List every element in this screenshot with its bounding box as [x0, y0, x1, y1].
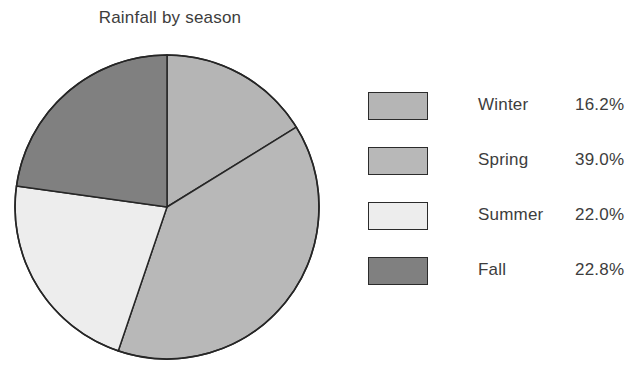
legend-value-winter: 16.2%	[575, 95, 624, 115]
legend-item-spring[interactable]: Spring 39.0%	[368, 145, 632, 200]
pie-chart-figure: Rainfall by season Winter 16.2% Spring 3…	[0, 0, 640, 375]
legend-swatch-summer	[368, 202, 428, 230]
legend-value-summer: 22.0%	[575, 205, 624, 225]
pie-slice-group	[15, 55, 319, 359]
legend-label-fall: Fall	[478, 260, 506, 280]
legend-item-winter[interactable]: Winter 16.2%	[368, 90, 632, 145]
legend-swatch-fall	[368, 257, 428, 285]
legend-label-winter: Winter	[478, 95, 528, 115]
legend-swatch-winter	[368, 92, 428, 120]
legend-item-summer[interactable]: Summer 22.0%	[368, 200, 632, 255]
pie-svg	[0, 38, 340, 375]
legend-item-fall[interactable]: Fall 22.8%	[368, 255, 632, 310]
pie-slice-fall[interactable]	[16, 55, 167, 207]
chart-legend: Winter 16.2% Spring 39.0% Summer 22.0% F…	[368, 90, 632, 310]
legend-label-summer: Summer	[478, 205, 543, 225]
legend-label-spring: Spring	[478, 150, 528, 170]
legend-swatch-spring	[368, 147, 428, 175]
chart-title: Rainfall by season	[0, 8, 340, 28]
legend-value-spring: 39.0%	[575, 150, 624, 170]
legend-value-fall: 22.8%	[575, 260, 624, 280]
pie-plot-area	[0, 38, 340, 375]
